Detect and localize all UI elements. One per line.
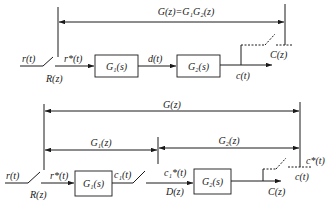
top-input-sampler-switch (43, 57, 53, 66)
top-input-label: r(t) (22, 53, 36, 65)
bottom-span-label: G(z) (163, 99, 181, 111)
bottom-mid-sampler-switch (133, 171, 145, 183)
bottom-output-sampler-switch (276, 158, 286, 169)
top-output-label: c(t) (236, 70, 251, 82)
sampled-data-diagram: G(z)=G₁G₂(z) r(t) R(z) r*(t) G₁(s) d(t) … (0, 0, 326, 207)
top-mid-signal-label: d(t) (148, 53, 163, 65)
bottom-block-g2-label: G₂(s) (202, 176, 224, 188)
bottom-sampled-signal-label: r*(t) (50, 170, 69, 182)
top-block-g1-label: G₁(s) (106, 61, 128, 73)
bottom-sampled-mid-label: c₁*(t) (164, 167, 187, 179)
bottom-diagram: G(z) G₁(z) G₂(z) r(t) R(z) r*(t) G₁(s) c… (5, 99, 326, 201)
bottom-mid-sampler-label: D(z) (165, 186, 184, 198)
bottom-output-label: C(z) (268, 186, 286, 198)
bottom-span1-label: G₁(z) (90, 137, 112, 149)
bottom-input-sampler-switch (28, 172, 40, 183)
top-span-label: G(z)=G₁G₂(z) (158, 6, 215, 18)
bottom-block1-output-label: c₁(t) (114, 169, 132, 181)
top-sampler-label: R(z) (45, 73, 63, 85)
bottom-block-g1-label: G₁(s) (83, 178, 105, 190)
top-output-sampler-switch (265, 34, 275, 45)
bottom-sampled-output-label: c*(t) (306, 155, 326, 167)
top-sampled-signal-label: r*(t) (64, 53, 83, 65)
bottom-span2-label: G₂(z) (218, 135, 240, 147)
bottom-sampler-label: R(z) (29, 189, 47, 201)
top-block-g2-label: G₂(s) (188, 61, 210, 73)
bottom-input-label: r(t) (6, 170, 20, 182)
top-output-sampler-label: C(z) (270, 49, 288, 61)
top-diagram: G(z)=G₁G₂(z) r(t) R(z) r*(t) G₁(s) d(t) … (20, 4, 293, 85)
bottom-output-signal-label: c(t) (295, 171, 310, 183)
